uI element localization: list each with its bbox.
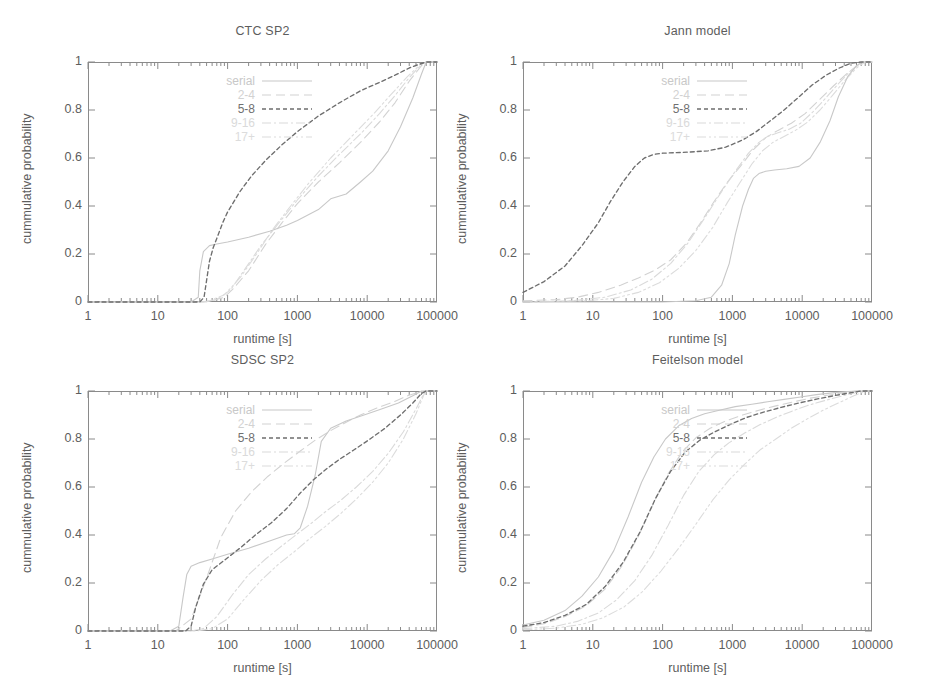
legend-line-sample	[696, 445, 748, 459]
legend-label: 2-4	[135, 417, 255, 431]
legend-label: 9-16	[135, 445, 255, 459]
legend-label: 2-4	[135, 88, 255, 102]
panel-title: Jann model	[523, 24, 872, 38]
y-axis-label: cummulative probability	[455, 113, 469, 244]
figure-cdf-runtime-by-jobsize: CTC SP211010010001000010000000.20.40.60.…	[0, 0, 945, 692]
legend-item-9-16: 9-16	[128, 445, 313, 459]
plot-frame	[89, 392, 437, 631]
legend-line-sample	[261, 88, 313, 102]
series-line-2-4	[523, 62, 872, 301]
x-axis-label: runtime [s]	[88, 661, 437, 675]
y-axis-label: cummulative probability	[455, 442, 469, 573]
legend-line-sample	[696, 431, 748, 445]
legend-item-17plus: 17+	[128, 459, 313, 473]
x-tick-label: 1000	[252, 309, 342, 323]
legend-label: serial	[135, 74, 255, 88]
x-tick-label: 100	[618, 309, 708, 323]
legend-label: 9-16	[135, 116, 255, 130]
legend-line-sample	[261, 417, 313, 431]
x-tick-label: 1	[478, 638, 568, 652]
x-tick-label: 1000	[687, 309, 777, 323]
x-tick-label: 100	[183, 309, 273, 323]
y-tick-label: 0.6	[477, 479, 517, 493]
legend-item-serial: serial	[563, 74, 748, 88]
legend-item-2-4: 2-4	[563, 88, 748, 102]
legend-label: serial	[570, 74, 690, 88]
plot-area	[523, 62, 872, 302]
x-tick-label: 10	[548, 309, 638, 323]
x-axis-label: runtime [s]	[523, 332, 872, 346]
x-tick-label: 1	[43, 638, 133, 652]
legend-item-5-8: 5-8	[128, 102, 313, 116]
series-line-9-16	[88, 391, 437, 631]
x-tick-label: 10	[113, 309, 203, 323]
y-tick-label: 0.4	[477, 198, 517, 212]
series-line-serial	[88, 391, 437, 631]
legend-label: serial	[135, 403, 255, 417]
legend-item-serial: serial	[563, 403, 748, 417]
legend-label: 17+	[135, 459, 255, 473]
legend-label: 17+	[570, 459, 690, 473]
legend-label: 5-8	[135, 102, 255, 116]
legend-line-sample	[261, 130, 313, 144]
series-line-5-8	[88, 391, 437, 631]
series-line-5-8	[523, 62, 872, 292]
y-tick-label: 1	[42, 54, 82, 68]
y-axis-label: cummulative probability	[20, 442, 34, 573]
legend-item-2-4: 2-4	[128, 417, 313, 431]
x-tick-label: 100000	[392, 309, 482, 323]
x-tick-label: 100000	[392, 638, 482, 652]
legend-line-sample	[696, 417, 748, 431]
series-line-17plus	[88, 391, 437, 631]
plot-frame	[524, 392, 872, 631]
series-line-17plus	[523, 391, 872, 630]
y-tick-label: 0	[477, 294, 517, 308]
y-tick-label: 1	[477, 54, 517, 68]
legend-line-sample	[261, 403, 313, 417]
series-line-17plus	[523, 62, 872, 302]
x-tick-label: 100000	[827, 638, 917, 652]
y-tick-label: 0.2	[477, 575, 517, 589]
series-line-serial	[88, 62, 437, 302]
legend-line-sample	[696, 88, 748, 102]
legend-label: 17+	[570, 130, 690, 144]
legend: serial2-45-89-1617+	[128, 74, 313, 144]
legend-item-5-8: 5-8	[128, 431, 313, 445]
legend-line-sample	[696, 130, 748, 144]
legend-label: serial	[570, 403, 690, 417]
legend-item-9-16: 9-16	[563, 445, 748, 459]
plot-frame	[524, 63, 872, 302]
series-line-5-8	[523, 391, 872, 626]
legend-item-17plus: 17+	[563, 130, 748, 144]
y-tick-label: 0.4	[477, 527, 517, 541]
y-tick-label: 0.4	[42, 527, 82, 541]
legend-line-sample	[696, 74, 748, 88]
x-tick-label: 10000	[322, 638, 412, 652]
plot-frame	[89, 63, 437, 302]
y-tick-label: 0.6	[477, 150, 517, 164]
legend-item-9-16: 9-16	[563, 116, 748, 130]
chart-panel-4: Feitelson model11010010001000010000000.2…	[0, 0, 945, 692]
x-tick-label: 100	[618, 638, 708, 652]
y-tick-label: 0.2	[42, 246, 82, 260]
x-tick-label: 10000	[757, 309, 847, 323]
y-tick-label: 0.8	[42, 102, 82, 116]
legend-item-5-8: 5-8	[563, 431, 748, 445]
y-tick-label: 0	[477, 623, 517, 637]
legend-label: 2-4	[570, 88, 690, 102]
x-axis-label: runtime [s]	[523, 661, 872, 675]
legend-item-2-4: 2-4	[128, 88, 313, 102]
y-tick-label: 0.6	[42, 479, 82, 493]
legend-line-sample	[261, 445, 313, 459]
legend-item-serial: serial	[128, 403, 313, 417]
legend-label: 5-8	[135, 431, 255, 445]
x-tick-label: 10000	[322, 309, 412, 323]
legend-line-sample	[696, 403, 748, 417]
x-tick-label: 10	[113, 638, 203, 652]
y-tick-label: 0.2	[42, 575, 82, 589]
chart-panel-2: Jann model11010010001000010000000.20.40.…	[0, 0, 945, 692]
y-tick-label: 0	[42, 294, 82, 308]
series-line-5-8	[88, 62, 437, 302]
series-line-2-4	[523, 391, 872, 627]
legend-line-sample	[261, 102, 313, 116]
